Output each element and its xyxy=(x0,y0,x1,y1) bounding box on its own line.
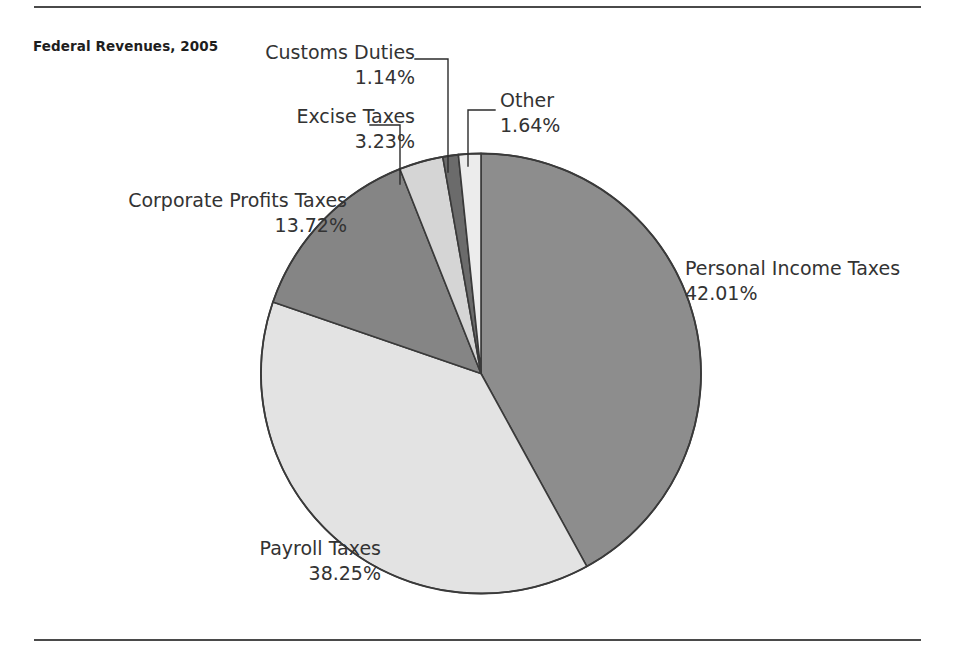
pie-label-payroll-taxes: Payroll Taxes 38.25% xyxy=(260,536,381,586)
pie-label-excise-taxes-name: Excise Taxes xyxy=(296,104,415,129)
pie-chart xyxy=(0,0,953,653)
leader-line-customs-duties xyxy=(415,59,448,172)
pie-label-customs-duties-value: 1.14% xyxy=(265,65,415,90)
pie-label-corporate-profits-taxes: Corporate Profits Taxes 13.72% xyxy=(128,188,347,238)
pie-label-personal-income-taxes-name: Personal Income Taxes xyxy=(685,256,900,281)
pie-label-other-value: 1.64% xyxy=(500,113,560,138)
pie-label-excise-taxes: Excise Taxes 3.23% xyxy=(296,104,415,154)
pie-label-payroll-taxes-value: 38.25% xyxy=(260,561,381,586)
pie-label-excise-taxes-value: 3.23% xyxy=(296,129,415,154)
pie-label-corporate-profits-taxes-value: 13.72% xyxy=(128,213,347,238)
pie-label-customs-duties-name: Customs Duties xyxy=(265,40,415,65)
pie-label-other: Other 1.64% xyxy=(500,88,560,138)
pie-label-customs-duties: Customs Duties 1.14% xyxy=(265,40,415,90)
pie-label-personal-income-taxes-value: 42.01% xyxy=(685,281,900,306)
figure-container: Federal Revenues, 2005 Customs Duties 1.… xyxy=(0,0,953,653)
pie-label-corporate-profits-taxes-name: Corporate Profits Taxes xyxy=(128,188,347,213)
pie-label-personal-income-taxes: Personal Income Taxes 42.01% xyxy=(685,256,900,306)
pie-label-payroll-taxes-name: Payroll Taxes xyxy=(260,536,381,561)
pie-label-other-name: Other xyxy=(500,88,560,113)
